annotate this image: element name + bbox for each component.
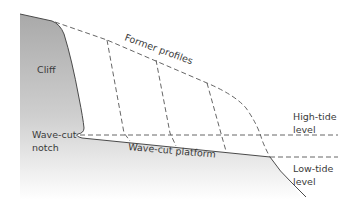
cliff-label-text: Cliff bbox=[37, 63, 55, 76]
cliff-rock bbox=[20, 14, 300, 200]
low-tide-label-line1: Low-tide bbox=[293, 162, 333, 175]
notch-label-line2: notch bbox=[32, 141, 76, 154]
former-profiles-line bbox=[55, 22, 270, 157]
low-tide-label: Low-tide level bbox=[293, 162, 333, 188]
cliff-label: Cliff bbox=[37, 63, 55, 76]
former-profile-2 bbox=[156, 60, 176, 146]
wave-cut-notch-label: Wave-cut notch bbox=[32, 128, 76, 154]
notch-label-line1: Wave-cut bbox=[32, 128, 76, 141]
high-tide-label-line2: level bbox=[293, 123, 337, 136]
former-profiles-label: Former profiles bbox=[123, 32, 194, 67]
former-profile-1 bbox=[107, 40, 130, 141]
former-profile-3 bbox=[207, 83, 226, 151]
high-tide-label: High-tide level bbox=[293, 110, 337, 136]
low-tide-label-line2: level bbox=[293, 175, 333, 188]
high-tide-label-line1: High-tide bbox=[293, 110, 337, 123]
